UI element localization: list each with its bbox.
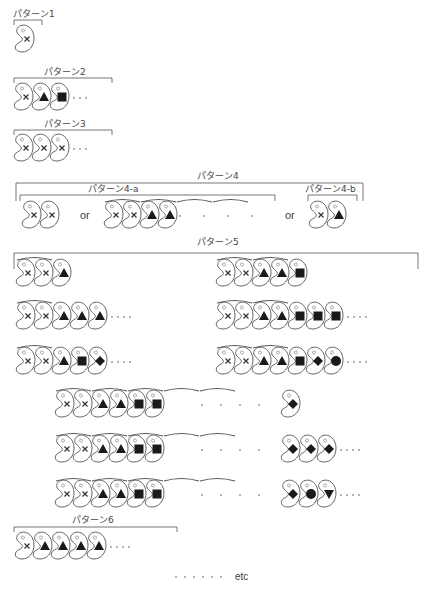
bean-eye-icon <box>316 205 319 208</box>
square-mark-icon <box>135 445 144 454</box>
trailing-dot <box>111 316 113 318</box>
trailing-dot <box>340 494 342 496</box>
bean-triangle <box>70 302 89 329</box>
pattern-label-p4: パターン4 <box>197 171 239 181</box>
gap-dot <box>258 449 260 451</box>
bean-outline <box>22 201 41 228</box>
bean-outline <box>34 302 53 329</box>
bean-eye-icon <box>152 394 155 397</box>
pair-arc <box>164 434 199 437</box>
trailing-dot <box>358 494 360 496</box>
bean-eye-icon <box>95 351 98 354</box>
bean-x <box>34 259 53 286</box>
bean-eye-icon <box>62 394 65 397</box>
bean-triangle <box>91 480 110 507</box>
gap-dot <box>258 404 260 406</box>
bean-eye-icon <box>58 536 61 539</box>
diagram-layer: パターン1パターン2パターン3パターン4パターン4-aパターン4-bororパタ… <box>13 9 418 578</box>
bean-outline <box>16 347 35 374</box>
bean-outline <box>40 201 59 228</box>
square-mark-icon <box>135 400 144 409</box>
pattern-label-p5: パターン5 <box>197 237 239 247</box>
bean-eye-icon <box>23 306 26 309</box>
bean-eye-icon <box>147 205 150 208</box>
bean-eye-icon <box>295 351 298 354</box>
bean-triangle <box>69 532 88 559</box>
bean-eye-icon <box>41 263 44 266</box>
bean-eye-icon <box>22 29 25 32</box>
footer-dot <box>211 576 213 578</box>
trailing-dot <box>129 316 131 318</box>
trailing-dot <box>111 361 113 363</box>
bean-eye-icon <box>62 439 65 442</box>
footer-dot <box>220 576 222 578</box>
bean-triangle <box>32 83 51 110</box>
bean-square <box>50 83 69 110</box>
bean-eye-icon <box>116 484 119 487</box>
bean-outline <box>55 480 74 507</box>
pattern-diagram: パターン1パターン2パターン3パターン4パターン4-aパターン4-bororパタ… <box>0 0 432 590</box>
trailing-dot <box>73 148 75 150</box>
bean-x <box>55 390 74 417</box>
bean-x <box>16 302 35 329</box>
trailing-dot <box>117 361 119 363</box>
bean-square <box>127 390 146 417</box>
bean-triangle <box>252 259 271 286</box>
bean-eye-icon <box>331 306 334 309</box>
bean-eye-icon <box>41 351 44 354</box>
footer-dot <box>193 576 195 578</box>
bean-x <box>32 134 51 161</box>
bean-eye-icon <box>98 394 101 397</box>
trailing-dot <box>85 97 87 99</box>
pair-arc <box>200 389 235 392</box>
bean-outline <box>15 532 34 559</box>
pair-arc <box>213 200 248 203</box>
bean-x <box>73 390 92 417</box>
bean-triangle <box>252 347 271 374</box>
bean-x <box>16 259 35 286</box>
footer-dot <box>184 576 186 578</box>
bean-outline <box>16 302 35 329</box>
bean-eye-icon <box>77 306 80 309</box>
trailing-dot <box>116 546 118 548</box>
bean-x <box>216 302 235 329</box>
pattern-label-p3: パターン3 <box>44 119 86 129</box>
bracket-p1 <box>14 20 42 25</box>
trailing-dot <box>85 148 87 150</box>
bean-outline <box>216 302 235 329</box>
circle-mark-icon <box>306 489 316 499</box>
bean-outline <box>234 259 253 286</box>
bean-eye-icon <box>288 439 291 442</box>
bean-eye-icon <box>277 351 280 354</box>
bean-x <box>234 259 253 286</box>
square-mark-icon <box>296 269 305 278</box>
trailing-dot <box>73 97 75 99</box>
bean-x <box>73 480 92 507</box>
trailing-dot <box>347 316 349 318</box>
bracket-p6 <box>14 527 177 532</box>
gap-dot <box>220 404 222 406</box>
pattern-label-p4b: パターン4-b <box>305 184 356 194</box>
bean-outline <box>309 201 328 228</box>
bean-triangle <box>270 302 289 329</box>
bean-eye-icon <box>47 205 50 208</box>
bean-diamond <box>317 435 336 462</box>
bean-outline <box>104 201 123 228</box>
bean-eye-icon <box>111 205 114 208</box>
bean-square <box>324 302 343 329</box>
bean-triangle <box>51 532 70 559</box>
bean-x <box>14 134 33 161</box>
bean-x <box>15 532 34 559</box>
bean-outline <box>55 435 74 462</box>
bean-eye-icon <box>41 306 44 309</box>
bean-outline <box>73 435 92 462</box>
or-label: or <box>285 209 295 221</box>
bean-x <box>14 83 33 110</box>
bean-eye-icon <box>277 263 280 266</box>
trailing-dot <box>79 148 81 150</box>
bean-eye-icon <box>259 263 262 266</box>
trailing-dot <box>353 316 355 318</box>
bean-eye-icon <box>98 484 101 487</box>
bean-triangle <box>91 435 110 462</box>
bean-eye-icon <box>324 439 327 442</box>
